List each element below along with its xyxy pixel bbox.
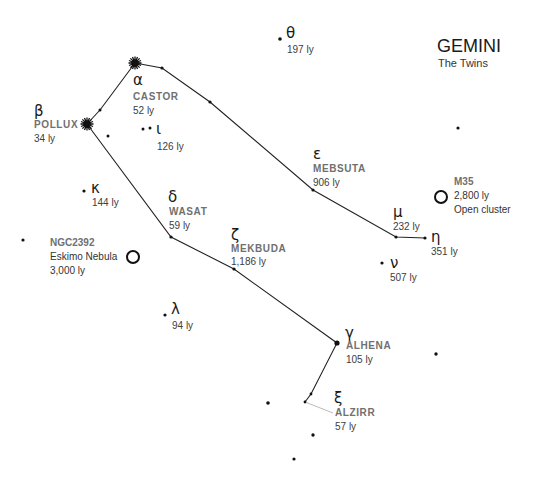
star-distance: 59 ly [169, 220, 190, 231]
star-castor: α CASTOR 52 ly [129, 57, 179, 117]
star-name: WASAT [169, 206, 207, 217]
star-dot [21, 238, 24, 241]
star-dot [160, 66, 163, 69]
star-dot [456, 126, 459, 129]
constellation-title: GEMINI [437, 36, 501, 56]
star-distance: 52 ly [133, 105, 154, 116]
star-dot [311, 433, 314, 436]
star-distance: 232 ly [393, 221, 420, 232]
star-greek-letter: ε [313, 145, 321, 163]
star-greek-letter: η [431, 228, 441, 246]
star-dot-icon [423, 236, 426, 239]
star-kappa: κ 144 ly [82, 179, 118, 208]
star-distance: 94 ly [172, 320, 193, 331]
star-greek-letter: δ [168, 188, 177, 206]
star-name: CASTOR [133, 91, 179, 102]
star-distance: 126 ly [157, 141, 184, 152]
star-dot-icon [311, 188, 314, 191]
star-theta: θ 197 ly [278, 24, 313, 55]
star-greek-letter: ξ [334, 389, 342, 407]
star-eta: η 351 ly [423, 228, 457, 257]
deep-sky-m35: M35 2,800 ly Open cluster [435, 176, 511, 215]
star-distance: 507 ly [390, 272, 417, 283]
star-dot [434, 352, 437, 355]
dso-name: NGC2392 [50, 237, 95, 248]
star-lambda: λ 94 ly [163, 300, 193, 331]
star-dot-icon [380, 261, 383, 264]
constellation-subtitle: The Twins [438, 57, 488, 69]
star-dot [99, 109, 102, 112]
star-alhena: γ ALHENA 105 ly [334, 324, 391, 365]
star-greek-letter: β [34, 102, 44, 120]
star-mu: μ 232 ly [393, 203, 420, 239]
star-distance: 1,186 ly [231, 256, 266, 267]
star-greek-letter: α [133, 71, 143, 89]
star-nu: ν 507 ly [380, 254, 416, 283]
line-pollux-alzirr [87, 124, 337, 402]
alzirr-leader-line [305, 402, 333, 413]
star-dot-icon [163, 313, 166, 316]
star-greek-letter: θ [286, 24, 295, 42]
star-dot [142, 128, 145, 131]
star-name: MEKBUDA [231, 243, 286, 254]
star-mekbuda: ζ MEKBUDA 1,186 ly [231, 226, 286, 271]
star-dot [310, 393, 313, 396]
star-greek-letter: μ [393, 203, 403, 221]
dso-type: Open cluster [454, 204, 511, 215]
star-dot [208, 100, 211, 103]
open-cluster-icon [435, 191, 447, 203]
star-name: ALHENA [346, 340, 391, 351]
nebula-icon [127, 251, 139, 263]
star-distance: 197 ly [287, 44, 314, 55]
star-pollux: β POLLUX 34 ly [34, 102, 94, 144]
star-distance: 34 ly [34, 133, 55, 144]
star-dot-icon [169, 235, 172, 238]
star-wasat: δ WASAT 59 ly [168, 188, 207, 239]
star-name: ALZIRR [335, 407, 375, 418]
star-greek-letter: ζ [231, 226, 239, 244]
deep-sky-ngc2392: NGC2392 Eskimo Nebula 3,000 ly [50, 237, 139, 276]
dso-name: M35 [454, 176, 474, 187]
gemini-constellation-chart: α CASTOR 52 ly β POLLUX 34 ly θ 197 ly ι… [0, 0, 551, 485]
star-name: POLLUX [34, 119, 78, 130]
star-greek-letter: ι [156, 120, 161, 138]
star-dot-icon [149, 127, 152, 130]
dso-distance: 3,000 ly [50, 265, 85, 276]
chart-title-block: GEMINI The Twins [437, 36, 501, 69]
star-distance: 351 ly [431, 246, 458, 257]
star-iota: ι 126 ly [149, 120, 184, 152]
star-distance: 144 ly [92, 197, 119, 208]
dso-common-name: Eskimo Nebula [50, 251, 118, 262]
star-dot-icon [394, 235, 397, 238]
bright-star-icon [129, 57, 142, 70]
star-dot-icon [334, 340, 339, 345]
star-distance: 57 ly [335, 421, 356, 432]
star-greek-letter: κ [91, 179, 100, 197]
star-dot [266, 401, 270, 405]
star-greek-letter: ν [390, 254, 398, 272]
star-dot-icon [304, 401, 307, 404]
star-name: MEBSUTA [313, 163, 366, 174]
star-greek-letter: λ [171, 300, 180, 318]
star-dot-icon [82, 189, 85, 192]
bright-star-icon [81, 118, 94, 131]
star-dot-icon [232, 267, 235, 270]
star-dot [107, 135, 110, 138]
star-dot [292, 457, 295, 460]
star-alzirr: ξ ALZIRR 57 ly [304, 389, 376, 432]
dso-distance: 2,800 ly [454, 190, 489, 201]
star-mebsuta: ε MEBSUTA 906 ly [311, 145, 366, 192]
star-dot-icon [278, 37, 282, 41]
star-distance: 105 ly [346, 354, 373, 365]
line-castor-pollux [87, 63, 135, 124]
star-distance: 906 ly [313, 177, 340, 188]
